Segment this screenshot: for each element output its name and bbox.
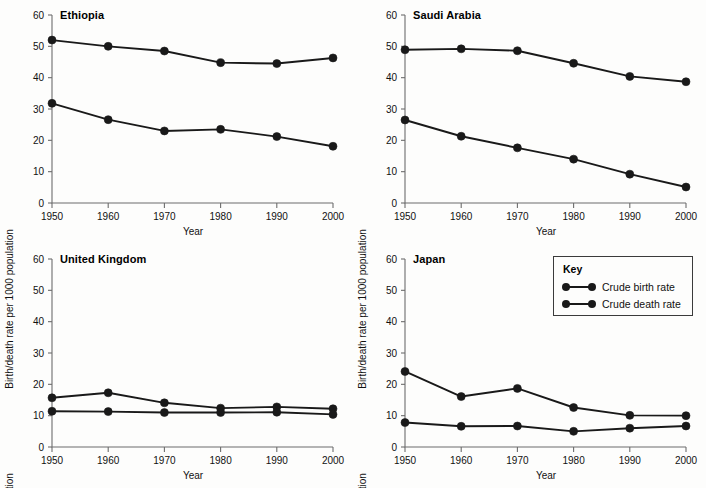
- x-tick-label: 1960: [450, 455, 473, 466]
- x-tick-label: 1970: [506, 455, 529, 466]
- panel-title: Japan: [413, 253, 445, 265]
- x-axis-title: Year: [52, 470, 334, 481]
- x-tick-label: 1960: [97, 455, 120, 466]
- series-line: [52, 103, 333, 146]
- y-tick-label: 40: [386, 72, 398, 83]
- y-tick-label: 20: [386, 379, 398, 390]
- data-point-marker: [570, 427, 578, 435]
- plot-area: 0102030405060195019601970198019902000: [353, 0, 706, 244]
- y-tick-label: 0: [38, 442, 44, 453]
- data-point-marker: [217, 409, 225, 417]
- x-tick-label: 1950: [41, 455, 64, 466]
- series-line: [405, 423, 686, 432]
- data-point-marker: [273, 408, 281, 416]
- x-tick-label: 2000: [675, 211, 698, 222]
- data-point-marker: [513, 422, 521, 430]
- x-tick-label: 1970: [506, 211, 529, 222]
- data-point-marker: [401, 367, 409, 375]
- y-axis-title: Birth/death rate per 1000 population: [4, 453, 18, 488]
- data-point-marker: [329, 54, 337, 62]
- chart-panel-ethiopia: 0102030405060195019601970198019902000Bir…: [0, 0, 353, 244]
- data-point-marker: [570, 155, 578, 163]
- x-axis-title: Year: [405, 226, 687, 237]
- data-point-marker: [160, 409, 168, 417]
- x-tick-label: 1990: [619, 211, 642, 222]
- x-tick-label: 1950: [394, 211, 417, 222]
- y-tick-label: 30: [33, 348, 45, 359]
- y-tick-label: 20: [33, 135, 45, 146]
- series-line: [405, 371, 686, 415]
- y-tick-label: 50: [386, 41, 398, 52]
- y-tick-label: 40: [33, 72, 45, 83]
- data-point-marker: [329, 410, 337, 418]
- data-point-marker: [457, 45, 465, 53]
- data-point-marker: [457, 422, 465, 430]
- panel-title: Saudi Arabia: [413, 9, 481, 21]
- chart-panel-japan: 0102030405060195019601970198019902000Bir…: [353, 244, 706, 488]
- data-point-marker: [48, 36, 56, 44]
- data-point-marker: [682, 183, 690, 191]
- y-tick-label: 30: [33, 104, 45, 115]
- legend-entry-label: Crude birth rate: [602, 281, 675, 293]
- y-tick-label: 40: [386, 316, 398, 327]
- legend-title: Key: [563, 263, 582, 275]
- data-point-marker: [626, 424, 634, 432]
- y-tick-label: 10: [33, 410, 45, 421]
- data-point-marker: [160, 47, 168, 55]
- data-point-marker: [104, 116, 112, 124]
- chart-panel-united-kingdom: 0102030405060195019601970198019902000Bir…: [0, 244, 353, 488]
- data-point-marker: [513, 384, 521, 392]
- data-point-marker: [401, 116, 409, 124]
- x-tick-label: 1950: [394, 455, 417, 466]
- x-axis-title: Year: [405, 470, 687, 481]
- data-point-marker: [401, 46, 409, 54]
- data-point-marker: [682, 412, 690, 420]
- data-point-marker: [513, 47, 521, 55]
- x-tick-label: 1990: [266, 211, 289, 222]
- series-line: [405, 49, 686, 82]
- data-point-marker: [457, 393, 465, 401]
- figure-panel-grid: 0102030405060195019601970198019902000Bir…: [0, 0, 706, 488]
- panel-title: Ethiopia: [60, 9, 104, 21]
- x-axis-title: Year: [52, 226, 334, 237]
- x-tick-label: 1970: [153, 211, 176, 222]
- data-point-marker: [160, 399, 168, 407]
- x-tick-label: 1960: [97, 211, 120, 222]
- data-point-marker: [48, 407, 56, 415]
- x-tick-label: 1990: [619, 455, 642, 466]
- data-point-marker: [217, 125, 225, 133]
- data-point-marker: [626, 411, 634, 419]
- data-point-marker: [273, 60, 281, 68]
- data-point-marker: [626, 72, 634, 80]
- data-point-marker: [48, 99, 56, 107]
- y-tick-label: 40: [33, 316, 45, 327]
- y-tick-label: 60: [386, 254, 398, 265]
- plot-area: 0102030405060195019601970198019902000: [0, 244, 353, 488]
- data-point-marker: [329, 142, 337, 150]
- legend-key-box: Key Crude birth rate Crude death rate: [553, 256, 693, 316]
- y-tick-label: 60: [33, 254, 45, 265]
- y-tick-label: 0: [38, 198, 44, 209]
- data-point-marker: [104, 42, 112, 50]
- y-tick-label: 10: [33, 166, 45, 177]
- series-line: [52, 411, 333, 414]
- data-point-marker: [104, 408, 112, 416]
- data-point-marker: [217, 59, 225, 67]
- x-tick-label: 1980: [209, 211, 232, 222]
- data-point-marker: [513, 144, 521, 152]
- x-tick-label: 1980: [209, 455, 232, 466]
- x-tick-label: 1990: [266, 455, 289, 466]
- data-point-marker: [48, 394, 56, 402]
- data-point-marker: [457, 132, 465, 140]
- x-tick-label: 1970: [153, 455, 176, 466]
- x-tick-label: 2000: [322, 211, 345, 222]
- data-point-marker: [570, 59, 578, 67]
- x-tick-label: 2000: [322, 455, 345, 466]
- y-tick-label: 0: [391, 442, 397, 453]
- legend-entry-label: Crude death rate: [602, 298, 681, 310]
- legend-entry-crude-death-rate: Crude death rate: [562, 297, 681, 311]
- data-point-marker: [626, 170, 634, 178]
- data-point-marker: [570, 404, 578, 412]
- y-tick-label: 30: [386, 348, 398, 359]
- chart-panel-saudi-arabia: 0102030405060195019601970198019902000Bir…: [353, 0, 706, 244]
